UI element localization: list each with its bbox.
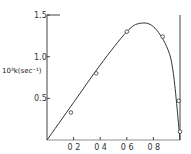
x-tick-label: 0 4 xyxy=(94,143,107,152)
data-point xyxy=(125,30,129,34)
data-points xyxy=(69,30,182,134)
data-point xyxy=(178,130,182,134)
data-point xyxy=(177,99,181,103)
x-tick-label: 0 2 xyxy=(68,143,81,152)
fit-curve xyxy=(47,23,180,140)
data-point xyxy=(161,35,165,39)
y-tick-label: 1.5 xyxy=(34,11,47,20)
data-point xyxy=(94,72,98,76)
y-tick-label: 0.5 xyxy=(34,94,47,103)
y-axis-label: 10³k(sec⁻¹) xyxy=(2,67,42,75)
y-tick-label: 1.0 xyxy=(34,53,47,62)
x-tick-label: 0 6 xyxy=(121,143,134,152)
x-tick-label: 0 8 xyxy=(147,143,160,152)
data-point xyxy=(69,111,73,115)
chart: 0 20 40 60 80.51.01.5 10³k(sec⁻¹) xyxy=(0,0,191,154)
